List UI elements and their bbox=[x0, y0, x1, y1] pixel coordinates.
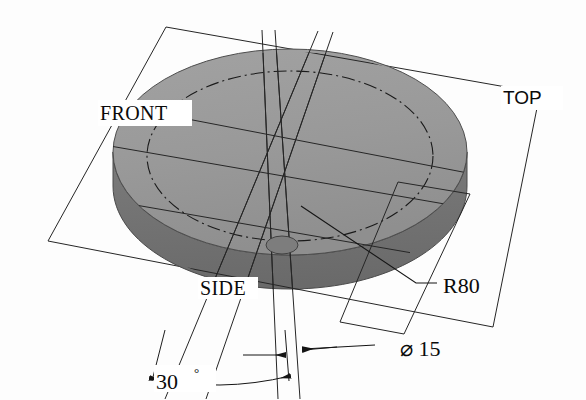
angle-value-label: 30 bbox=[156, 369, 178, 394]
degree-symbol: ° bbox=[194, 365, 199, 380]
angular-dimension: 30 ° bbox=[150, 330, 337, 394]
through-hole bbox=[266, 236, 298, 254]
technical-drawing-canvas: R80 ⌀ 15 30 ° FRONT bbox=[0, 0, 586, 400]
through-hole-feature bbox=[266, 236, 298, 254]
top-label: TOP bbox=[503, 87, 542, 108]
front-label: FRONT bbox=[100, 102, 168, 124]
plane-label-front: FRONT bbox=[98, 100, 192, 126]
plane-label-top: TOP bbox=[501, 86, 563, 110]
dia15-label: ⌀ 15 bbox=[400, 336, 441, 361]
angle-ext-right bbox=[285, 330, 289, 381]
cad-drawing-svg: R80 ⌀ 15 30 ° FRONT bbox=[0, 0, 586, 400]
side-label: SIDE bbox=[200, 277, 246, 299]
disc-top-face bbox=[113, 49, 467, 255]
plane-label-side: SIDE bbox=[198, 277, 258, 299]
dia15-leader-line bbox=[303, 345, 375, 349]
r80-label: R80 bbox=[443, 273, 480, 298]
